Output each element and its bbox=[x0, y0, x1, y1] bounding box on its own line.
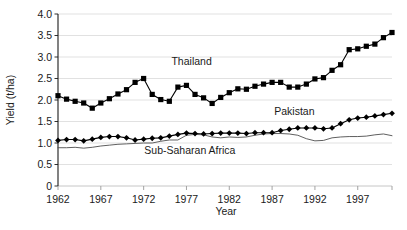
data-point-marker bbox=[218, 95, 223, 100]
y-tick-label: 0.5 bbox=[37, 158, 52, 170]
y-axis-title: Yield (t/ha) bbox=[4, 75, 16, 125]
data-point-marker bbox=[347, 47, 352, 52]
y-tick-label: 2.5 bbox=[37, 72, 52, 84]
data-point-marker bbox=[329, 68, 334, 73]
series-label-sub-saharan-africa: Sub-Saharan Africa bbox=[144, 144, 235, 156]
x-tick-label: 1977 bbox=[175, 193, 199, 205]
y-tick-label: 3.0 bbox=[37, 51, 52, 63]
data-point-marker bbox=[132, 80, 137, 85]
y-tick-label: 0 bbox=[46, 180, 52, 192]
data-point-marker bbox=[355, 46, 360, 51]
data-point-marker bbox=[338, 62, 343, 67]
data-point-marker bbox=[244, 87, 249, 92]
data-point-marker bbox=[167, 99, 172, 104]
data-point-marker bbox=[210, 101, 215, 106]
data-point-marker bbox=[81, 100, 86, 105]
data-point-marker bbox=[278, 80, 283, 85]
x-tick-label: 1982 bbox=[218, 193, 242, 205]
x-tick-label: 1962 bbox=[46, 193, 70, 205]
data-point-marker bbox=[192, 92, 197, 97]
y-tick-label: 4.0 bbox=[37, 8, 52, 20]
data-point-marker bbox=[55, 93, 60, 98]
data-point-marker bbox=[270, 80, 275, 85]
data-point-marker bbox=[389, 30, 394, 35]
data-point-marker bbox=[364, 44, 369, 49]
x-axis-title: Year bbox=[215, 205, 237, 217]
data-point-marker bbox=[64, 97, 69, 102]
data-point-marker bbox=[124, 87, 129, 92]
data-point-marker bbox=[98, 100, 103, 105]
data-point-marker bbox=[312, 76, 317, 81]
data-point-marker bbox=[321, 75, 326, 80]
y-tick-label: 1.5 bbox=[37, 115, 52, 127]
data-point-marker bbox=[90, 106, 95, 111]
y-tick-label: 1.0 bbox=[37, 137, 52, 149]
series-label-pakistan: Pakistan bbox=[274, 105, 314, 117]
caption-strip bbox=[0, 218, 407, 230]
yield-line-chart: 00.51.01.52.02.53.03.54.0 19621967197219… bbox=[0, 0, 407, 230]
x-tick-label: 1967 bbox=[89, 193, 113, 205]
data-point-marker bbox=[158, 97, 163, 102]
x-tick-label: 1972 bbox=[132, 193, 156, 205]
x-tick-label: 1997 bbox=[346, 193, 370, 205]
data-point-marker bbox=[381, 35, 386, 40]
x-tick-label: 1987 bbox=[260, 193, 284, 205]
data-point-marker bbox=[73, 99, 78, 104]
x-tick-label: 1992 bbox=[303, 193, 327, 205]
series-label-thailand: Thailand bbox=[171, 55, 211, 67]
data-point-marker bbox=[287, 85, 292, 90]
data-point-marker bbox=[235, 86, 240, 91]
data-point-marker bbox=[261, 81, 266, 86]
data-point-marker bbox=[201, 95, 206, 100]
data-point-marker bbox=[227, 90, 232, 95]
data-point-marker bbox=[252, 84, 257, 89]
figure-container: 00.51.01.52.02.53.03.54.0 19621967197219… bbox=[0, 0, 407, 230]
data-point-marker bbox=[304, 81, 309, 86]
data-point-marker bbox=[175, 85, 180, 90]
data-point-marker bbox=[150, 92, 155, 97]
data-point-marker bbox=[295, 85, 300, 90]
data-point-marker bbox=[115, 91, 120, 96]
data-point-marker bbox=[107, 96, 112, 101]
y-axis-tick-labels: 00.51.01.52.02.53.03.54.0 bbox=[37, 8, 58, 192]
y-tick-label: 2.0 bbox=[37, 94, 52, 106]
data-point-marker bbox=[141, 76, 146, 81]
data-point-marker bbox=[372, 42, 377, 47]
y-tick-label: 3.5 bbox=[37, 29, 52, 41]
data-point-marker bbox=[184, 83, 189, 88]
